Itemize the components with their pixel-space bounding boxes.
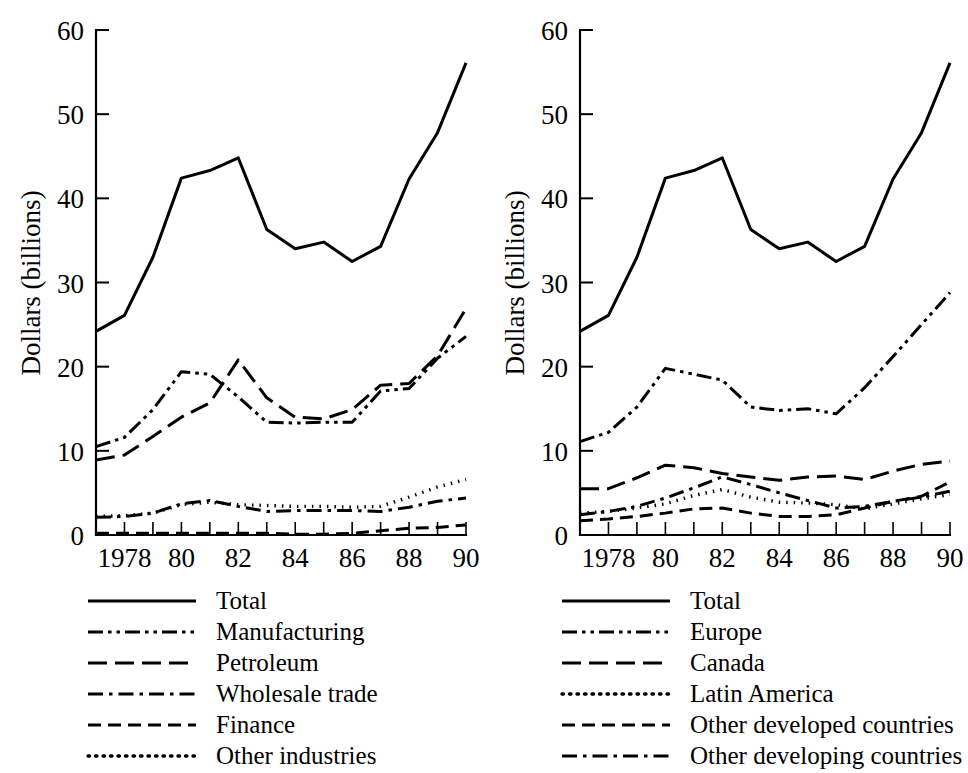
x-ticks-right xyxy=(580,522,950,535)
x-tick-label-1990: 90 xyxy=(453,543,480,573)
series-line-europe xyxy=(580,293,950,442)
legend-left: TotalManufacturingPetroleumWholesale tra… xyxy=(0,585,484,773)
series-lines-left xyxy=(96,63,466,534)
legend-swatch-dash-dot-icon xyxy=(86,683,198,705)
legend-swatch-dash-dot-dot-icon xyxy=(86,621,198,643)
legend-item-total[interactable]: Total xyxy=(0,585,484,616)
y-tick-label-30: 30 xyxy=(541,269,568,299)
chart-panel-left: 0102030405060 1978808284868890 Dollars (… xyxy=(0,0,484,773)
y-tick-label-50: 50 xyxy=(57,100,84,130)
legend-label: Petroleum xyxy=(216,650,319,675)
y-tick-label-10: 10 xyxy=(57,437,84,467)
legend-label: Total xyxy=(690,588,741,613)
y-tick-labels-right: 0102030405060 xyxy=(541,16,568,551)
x-tick-labels-left: 1978808284868890 xyxy=(97,543,479,573)
chart-panel-right: 0102030405060 1978808284868890 Dollars (… xyxy=(484,0,968,773)
legend-item-wholesale-trade[interactable]: Wholesale trade xyxy=(0,678,484,709)
series-line-latin-america xyxy=(580,490,950,514)
series-lines-right xyxy=(580,63,950,521)
y-tick-label-40: 40 xyxy=(541,184,568,214)
y-tick-label-10: 10 xyxy=(541,437,568,467)
plot-area-left: 0102030405060 1978808284868890 Dollars (… xyxy=(0,0,484,580)
y-tick-label-50: 50 xyxy=(541,100,568,130)
x-tick-labels-right: 1978808284868890 xyxy=(581,543,963,573)
legend-item-other-industries[interactable]: Other industries xyxy=(0,740,484,771)
y-tick-labels-left: 0102030405060 xyxy=(57,16,84,551)
x-tick-label-1978: 1978 xyxy=(581,543,635,573)
legend-swatch-dash-icon xyxy=(86,714,198,736)
y-tick-label-40: 40 xyxy=(57,184,84,214)
legend-label: Finance xyxy=(216,712,295,737)
legend-item-petroleum[interactable]: Petroleum xyxy=(0,647,484,678)
series-line-canada xyxy=(580,461,950,489)
y-tick-label-20: 20 xyxy=(57,353,84,383)
legend-label: Total xyxy=(216,588,267,613)
legend-swatch-solid-icon xyxy=(560,590,672,612)
x-tick-label-1986: 86 xyxy=(339,543,366,573)
x-tick-label-1988: 88 xyxy=(396,543,423,573)
legend-swatch-dash-dot-icon xyxy=(560,745,672,767)
series-line-petroleum xyxy=(96,309,466,461)
legend-item-europe[interactable]: Europe xyxy=(484,616,968,647)
plot-area-right: 0102030405060 1978808284868890 Dollars (… xyxy=(484,0,968,580)
x-tick-label-1980: 80 xyxy=(168,543,195,573)
x-tick-label-1978: 1978 xyxy=(97,543,151,573)
x-tick-label-1988: 88 xyxy=(880,543,907,573)
legend-swatch-solid-icon xyxy=(86,590,198,612)
x-tick-label-1982: 82 xyxy=(709,543,736,573)
legend-label: Wholesale trade xyxy=(216,681,378,706)
y-tick-label-0: 0 xyxy=(71,521,85,551)
x-tick-label-1984: 84 xyxy=(282,543,310,573)
y-axis-title-right: Dollars (billions) xyxy=(500,190,530,375)
legend-item-total[interactable]: Total xyxy=(484,585,968,616)
x-tick-label-1986: 86 xyxy=(823,543,850,573)
legend-swatch-dot-icon xyxy=(560,683,672,705)
legend-item-other-developing-countries[interactable]: Other developing countries xyxy=(484,740,968,771)
y-tick-label-30: 30 xyxy=(57,269,84,299)
y-ticks-right xyxy=(580,30,593,535)
x-tick-label-1990: 90 xyxy=(937,543,964,573)
legend-right: TotalEuropeCanadaLatin AmericaOther deve… xyxy=(484,585,968,773)
legend-item-canada[interactable]: Canada xyxy=(484,647,968,678)
figure-root: 0102030405060 1978808284868890 Dollars (… xyxy=(0,0,968,773)
legend-item-manufacturing[interactable]: Manufacturing xyxy=(0,616,484,647)
legend-item-other-developed-countries[interactable]: Other developed countries xyxy=(484,709,968,740)
series-line-finance xyxy=(96,525,466,534)
legend-swatch-dash-dot-dot-icon xyxy=(560,621,672,643)
y-tick-label-0: 0 xyxy=(555,521,569,551)
x-tick-label-1982: 82 xyxy=(225,543,252,573)
legend-label: Other developed countries xyxy=(690,712,954,737)
x-tick-label-1984: 84 xyxy=(766,543,794,573)
legend-label: Latin America xyxy=(690,681,834,706)
series-line-total xyxy=(96,63,466,332)
y-axis-title-left: Dollars (billions) xyxy=(16,190,46,375)
legend-item-finance[interactable]: Finance xyxy=(0,709,484,740)
legend-swatch-long-dash-icon xyxy=(86,652,198,674)
legend-swatch-dot-icon xyxy=(86,745,198,767)
legend-swatch-dash-icon xyxy=(560,714,672,736)
y-tick-label-60: 60 xyxy=(57,16,84,46)
series-line-total xyxy=(580,63,950,332)
y-tick-label-20: 20 xyxy=(541,353,568,383)
y-tick-label-60: 60 xyxy=(541,16,568,46)
legend-label: Europe xyxy=(690,619,762,644)
series-line-other-developing-countries xyxy=(580,477,950,515)
series-line-wholesale-trade xyxy=(96,498,466,517)
legend-item-latin-america[interactable]: Latin America xyxy=(484,678,968,709)
legend-label: Manufacturing xyxy=(216,619,365,644)
legend-label: Canada xyxy=(690,650,765,675)
legend-label: Other industries xyxy=(216,743,376,768)
series-line-manufacturing xyxy=(96,336,466,446)
legend-swatch-long-dash-icon xyxy=(560,652,672,674)
legend-label: Other developing countries xyxy=(690,743,962,768)
x-tick-label-1980: 80 xyxy=(652,543,679,573)
